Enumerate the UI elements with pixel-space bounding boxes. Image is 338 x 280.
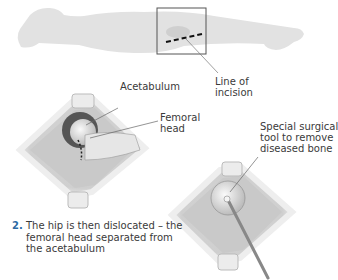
surgical-view-dislocated bbox=[20, 94, 145, 208]
label-tool-line2: tool to remove bbox=[260, 132, 338, 143]
label-incision: Line of incision bbox=[215, 76, 253, 98]
patient-silhouette bbox=[18, 8, 304, 53]
label-tool-line3: diseased bone bbox=[260, 143, 338, 154]
label-femoral-head-line2: head bbox=[160, 123, 200, 134]
label-femoral-head-line1: Femoral bbox=[160, 112, 200, 123]
label-tool-line1: Special surgical bbox=[260, 121, 338, 132]
label-incision-line1: Line of bbox=[215, 76, 253, 87]
step-caption: 2. The hip is then dislocated – the femo… bbox=[12, 220, 183, 255]
step-text: The hip is then dislocated – the femoral… bbox=[26, 220, 183, 255]
step-number: 2. bbox=[12, 220, 23, 231]
label-acetabulum: Acetabulum bbox=[120, 81, 180, 92]
surgical-view-tool bbox=[172, 162, 292, 278]
label-incision-line2: incision bbox=[215, 87, 253, 98]
label-femoral-head: Femoral head bbox=[160, 112, 200, 134]
caption-line2: femoral head separated from bbox=[26, 232, 183, 244]
label-surgical-tool: Special surgical tool to remove diseased… bbox=[260, 121, 338, 154]
caption-line3: the acetabulum bbox=[26, 243, 183, 255]
caption-line1: The hip is then dislocated – the bbox=[26, 220, 183, 232]
